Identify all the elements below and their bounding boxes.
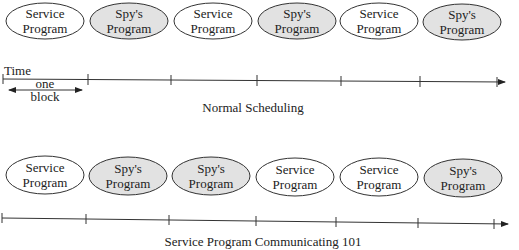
bottom-block-2: Spy's Program xyxy=(89,157,167,195)
block-label-line1: Service xyxy=(26,160,65,175)
block-label-line2: Program xyxy=(273,177,318,192)
block-label-line1: Service xyxy=(276,162,315,177)
block-label-line2: Program xyxy=(23,21,68,36)
time-axis-line xyxy=(2,218,508,224)
one-block-label-line2: block xyxy=(31,89,60,104)
block-label-line2: Program xyxy=(440,22,485,37)
block-label-line2: Program xyxy=(106,176,151,191)
bottom-block-3: Spy's Program xyxy=(172,157,250,195)
block-label-line2: Program xyxy=(191,21,236,36)
block-label-line1: Service xyxy=(360,162,399,177)
block-label-line1: Spy's xyxy=(114,161,142,176)
bottom-row: Service Program Spy's Program Spy's Prog… xyxy=(2,156,508,249)
block-label-line1: Spy's xyxy=(449,163,477,178)
block-label-line1: Service xyxy=(26,6,65,21)
time-axis-line xyxy=(3,79,505,82)
timing-diagram: Service Program Spy's Program Service Pr… xyxy=(0,0,519,250)
time-label: Time xyxy=(4,63,31,78)
block-label-line1: Spy's xyxy=(197,161,225,176)
bottom-block-6: Spy's Program xyxy=(424,159,502,197)
block-label-line1: Spy's xyxy=(283,6,311,21)
block-label-line2: Program xyxy=(357,177,402,192)
bottom-time-axis xyxy=(2,213,508,229)
one-block-indicator: one block xyxy=(9,76,82,104)
bottom-caption: Service Program Communicating 101 xyxy=(165,234,362,249)
bottom-block-5: Service Program xyxy=(340,158,418,196)
block-label-line2: Program xyxy=(441,178,486,193)
top-caption: Normal Scheduling xyxy=(202,100,304,115)
block-label-line1: Service xyxy=(194,6,233,21)
top-block-5: Service Program xyxy=(340,3,418,39)
bottom-block-4: Service Program xyxy=(256,158,334,196)
block-label-line2: Program xyxy=(23,175,68,190)
top-block-3: Service Program xyxy=(174,3,252,39)
top-block-4: Spy's Program xyxy=(258,3,336,39)
top-time-axis xyxy=(3,74,505,87)
block-label-line1: Spy's xyxy=(448,7,476,22)
block-label-line2: Program xyxy=(357,21,402,36)
block-label-line2: Program xyxy=(107,21,152,36)
block-label-line1: Service xyxy=(360,6,399,21)
block-label-line2: Program xyxy=(189,176,234,191)
block-label-line1: Spy's xyxy=(115,6,143,21)
top-row: Service Program Spy's Program Service Pr… xyxy=(3,3,505,115)
top-block-6: Spy's Program xyxy=(423,4,501,40)
bottom-block-1: Service Program xyxy=(6,156,84,194)
block-label-line2: Program xyxy=(275,21,320,36)
top-block-1: Service Program xyxy=(6,3,84,39)
top-block-2: Spy's Program xyxy=(90,3,168,39)
